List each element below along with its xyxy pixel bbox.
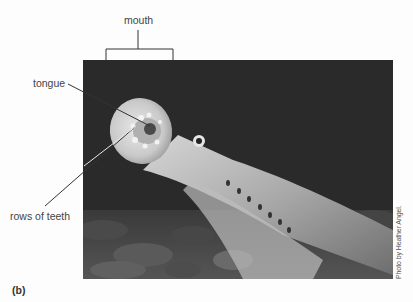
lamprey-photo (83, 60, 393, 279)
rows-of-teeth-label: rows of teeth (10, 211, 70, 222)
figure-panel-b: mouth tongue rows of teeth Photo by Heat… (0, 0, 413, 302)
lamprey-illustration (83, 60, 393, 279)
tongue-label: tongue (33, 78, 65, 89)
panel-label: (b) (12, 284, 25, 296)
photo-credit: Photo by Heather Angel. (395, 205, 402, 279)
mouth-bracket (106, 49, 173, 60)
mouth-label: mouth (124, 15, 153, 26)
